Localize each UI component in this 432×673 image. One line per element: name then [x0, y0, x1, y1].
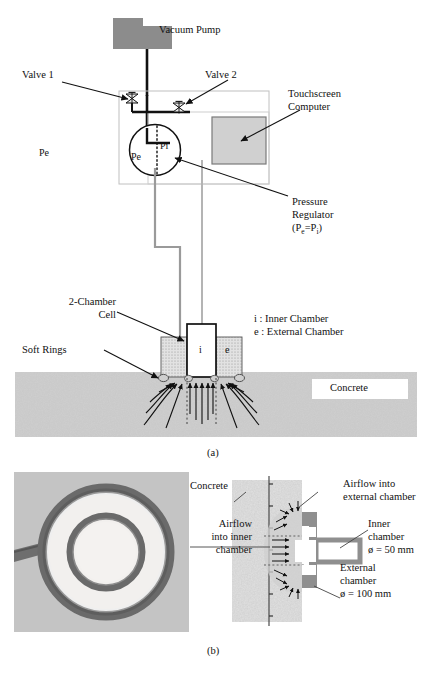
- label-concrete-panel-a: Concrete: [330, 382, 368, 395]
- label-external-chamber-line1: External: [340, 562, 376, 575]
- caption-panel-a: (a): [207, 447, 219, 458]
- label-pressure-regulator-line1: Pressure: [292, 196, 328, 209]
- label-touchscreen-computer-line2: Computer: [288, 101, 330, 114]
- label-inner-chamber-line1: Inner: [368, 518, 390, 531]
- pneumatic-tubes: [155, 160, 202, 340]
- label-airflow-inner-line1: Airflow: [188, 518, 252, 531]
- label-inner-chamber-line2: chamber: [368, 531, 404, 544]
- label-gauge-pe: Pe: [39, 147, 49, 160]
- label-airflow-external-line2: external chamber: [343, 491, 416, 504]
- label-airflow-inner-line2: into inner: [188, 531, 252, 544]
- label-concrete-panel-b: Concrete: [190, 480, 228, 493]
- label-chamber-external-e: e: [225, 344, 229, 357]
- label-airflow-external-line1: Airflow into: [343, 478, 395, 491]
- label-airflow-inner-line3: chamber: [188, 544, 252, 557]
- label-vacuum-pump: Vacuum Pump: [159, 24, 221, 37]
- label-valve-1: Valve 1: [22, 69, 54, 82]
- label-legend-external-chamber: e : External Chamber: [254, 326, 344, 339]
- label-valve-2: Valve 2: [205, 69, 237, 82]
- label-pe: Pe: [131, 151, 141, 164]
- label-pressure-regulator-line2: Regulator: [292, 209, 333, 222]
- label-chamber-inner-i: i: [199, 344, 202, 357]
- valve-2-symbol: [173, 101, 185, 113]
- photograph-soft-rings-on-concrete: [14, 472, 189, 632]
- formula-open: (P: [292, 222, 301, 233]
- caption-panel-b: (b): [207, 645, 219, 656]
- touchscreen-computer-screen: [212, 117, 266, 164]
- label-two-chamber-cell-line2: Cell: [30, 309, 116, 322]
- label-external-chamber-line2: chamber: [340, 575, 376, 588]
- label-legend-inner-chamber: i : Inner Chamber: [254, 313, 328, 326]
- label-pressure-regulator-formula: (Pe=Pi): [292, 222, 322, 239]
- pressure-regulator-gauge: [130, 125, 181, 176]
- label-touchscreen-computer-line1: Touchscreen: [288, 88, 341, 101]
- label-pi: Pi: [160, 140, 168, 153]
- label-external-chamber-diameter: ø = 100 mm: [340, 588, 391, 601]
- label-inner-chamber-diameter: ø = 50 mm: [368, 544, 414, 557]
- formula-eq: =P: [305, 222, 317, 233]
- label-two-chamber-cell-line1: 2-Chamber: [30, 296, 116, 309]
- label-soft-rings: Soft Rings: [22, 344, 67, 357]
- formula-close: ): [319, 222, 323, 233]
